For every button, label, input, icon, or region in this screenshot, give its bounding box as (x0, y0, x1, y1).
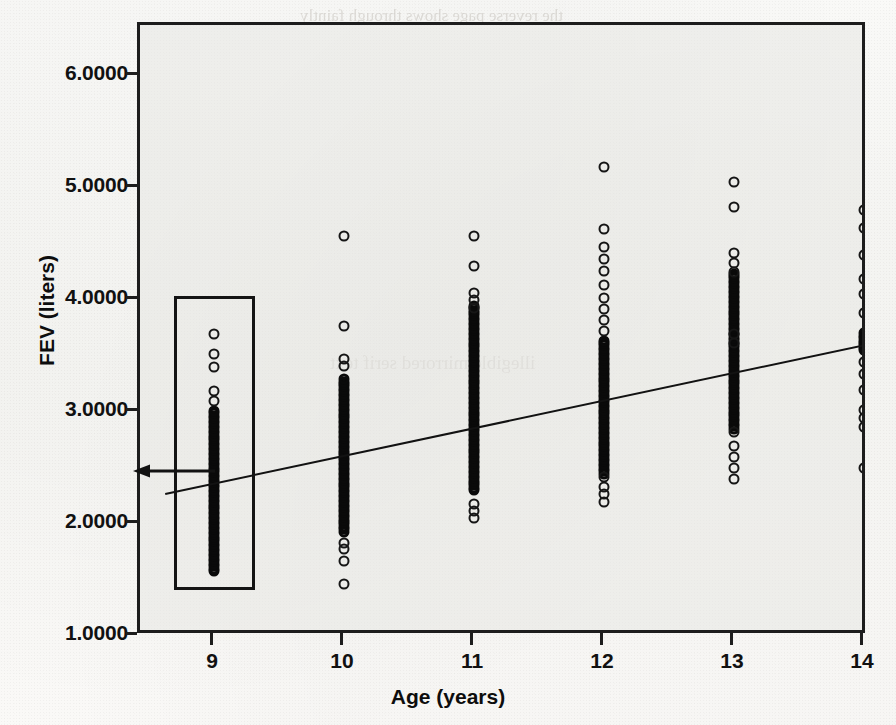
data-point (729, 267, 740, 278)
data-point (729, 177, 740, 188)
x-tick-mark-12 (600, 633, 603, 645)
regression-line (165, 331, 862, 494)
data-point (599, 224, 610, 235)
data-point (599, 253, 610, 264)
data-point (599, 280, 610, 291)
y-axis-tick-labels: 6.0000 5.0000 4.0000 3.0000 2.0000 1.000… (10, 0, 128, 725)
y-tick-mark-4 (126, 296, 137, 299)
data-point (339, 579, 350, 590)
x-tick-label-11: 11 (461, 650, 483, 671)
y-tick-mark-6 (126, 72, 137, 75)
age-9-highlight-box (174, 296, 255, 590)
data-point (859, 250, 863, 261)
data-point (859, 205, 863, 216)
x-tick-mark-10 (340, 633, 343, 645)
data-point (859, 421, 863, 432)
data-point (339, 361, 350, 372)
y-tick-label-4: 4.0000 (65, 286, 128, 307)
y-tick-label-2: 2.0000 (65, 510, 128, 531)
data-point (339, 374, 350, 385)
data-point (729, 427, 740, 438)
figure-page: the reverse page shows through faintly i… (0, 0, 896, 725)
y-tick-mark-5 (126, 184, 137, 187)
data-point (729, 202, 740, 213)
data-point (859, 308, 863, 319)
data-point (339, 555, 350, 566)
x-tick-label-14: 14 (850, 650, 873, 671)
data-point (599, 315, 610, 326)
data-point (599, 265, 610, 276)
y-tick-label-5: 5.0000 (65, 174, 128, 195)
x-tick-label-10: 10 (330, 650, 353, 671)
data-point (599, 303, 610, 314)
data-point (469, 231, 480, 242)
data-point (599, 292, 610, 303)
data-point (599, 242, 610, 253)
y-tick-label-6: 6.0000 (65, 62, 128, 83)
data-point (859, 273, 863, 284)
y-tick-mark-1 (126, 632, 137, 635)
data-point (599, 496, 610, 507)
data-point (469, 302, 480, 313)
data-point (599, 326, 610, 337)
y-tick-mark-2 (126, 520, 137, 523)
y-axis-title: FEV (liters) (36, 221, 57, 401)
data-point (859, 368, 863, 379)
data-point (859, 356, 863, 367)
fitted-value-arrow (133, 463, 215, 479)
data-point (729, 337, 740, 348)
x-tick-label-13: 13 (720, 650, 743, 671)
x-tick-mark-9 (210, 633, 213, 645)
data-point (469, 261, 480, 272)
data-point (859, 223, 863, 234)
data-point (599, 161, 610, 172)
data-point (339, 231, 350, 242)
data-point (469, 513, 480, 524)
x-tick-label-9: 9 (206, 650, 218, 671)
data-point (339, 543, 350, 554)
x-tick-mark-14 (860, 633, 863, 645)
x-tick-mark-11 (470, 633, 473, 645)
data-point (729, 451, 740, 462)
data-point (859, 463, 863, 474)
y-tick-label-3: 3.0000 (65, 398, 128, 419)
data-point (729, 440, 740, 451)
x-axis-title: Age (years) (0, 686, 896, 707)
data-point (339, 320, 350, 331)
data-point (729, 463, 740, 474)
y-tick-label-1: 1.0000 (65, 622, 128, 643)
data-point (729, 474, 740, 485)
data-point (859, 384, 863, 395)
x-tick-label-12: 12 (590, 650, 613, 671)
x-tick-mark-13 (730, 633, 733, 645)
data-point (859, 289, 863, 300)
y-tick-mark-3 (126, 408, 137, 411)
